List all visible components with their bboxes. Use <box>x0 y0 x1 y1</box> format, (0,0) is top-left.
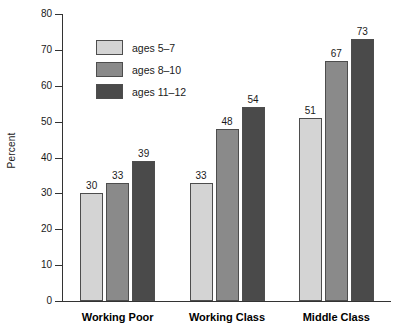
bar-group: 516773 <box>299 14 374 301</box>
y-axis-tick-label: 10 <box>28 260 52 270</box>
bar[interactable] <box>190 183 213 301</box>
bar[interactable] <box>80 193 103 301</box>
legend-swatch <box>96 40 123 55</box>
category-label: Middle Class <box>279 311 394 323</box>
y-axis-tick-labels: 80706050403020100 <box>24 0 52 331</box>
x-axis-category-labels: Working PoorWorking ClassMiddle Class <box>63 305 391 327</box>
y-axis-tick-label: 20 <box>28 224 52 234</box>
y-axis-tick-label: 80 <box>28 9 52 19</box>
bar[interactable] <box>132 161 155 301</box>
y-axis-tick <box>55 86 62 87</box>
category-label: Working Class <box>170 311 285 323</box>
y-axis-title-text: Percent <box>7 133 18 169</box>
legend-item[interactable]: ages 5–7 <box>96 38 226 57</box>
bar[interactable] <box>299 118 322 301</box>
y-axis-tick <box>55 301 62 302</box>
y-axis-tick <box>55 122 62 123</box>
legend-item[interactable]: ages 8–10 <box>96 60 226 79</box>
legend-label: ages 8–10 <box>132 64 181 76</box>
bar[interactable] <box>351 39 374 301</box>
y-axis-tick <box>55 50 62 51</box>
y-axis-tick-label: 30 <box>28 188 52 198</box>
bar-item[interactable]: 67 <box>325 14 348 301</box>
legend-swatch <box>96 84 123 99</box>
y-axis-tick-label: 50 <box>28 117 52 127</box>
bar[interactable] <box>325 61 348 301</box>
bar-item[interactable]: 73 <box>351 14 374 301</box>
category-label: Working Poor <box>60 311 175 323</box>
bar[interactable] <box>216 129 239 301</box>
y-axis-tick <box>55 265 62 266</box>
bar-value-label: 67 <box>319 48 354 59</box>
legend-label: ages 11–12 <box>132 86 186 98</box>
y-axis-tick <box>55 14 62 15</box>
y-axis-tick-label: 0 <box>28 296 52 306</box>
bar[interactable] <box>106 183 129 301</box>
bar[interactable] <box>242 107 265 301</box>
y-axis-tick-label: 70 <box>28 45 52 55</box>
y-axis-title: Percent <box>0 0 24 301</box>
bar-item[interactable]: 54 <box>242 14 265 301</box>
bar-value-label: 51 <box>293 105 328 116</box>
bar-value-label: 30 <box>74 180 109 191</box>
y-axis-tick-label: 40 <box>28 153 52 163</box>
legend-swatch <box>96 62 123 77</box>
legend-label: ages 5–7 <box>132 42 175 54</box>
bar-value-label: 54 <box>236 94 271 105</box>
y-axis-tick <box>55 193 62 194</box>
legend-item[interactable]: ages 11–12 <box>96 82 226 101</box>
bar-value-label: 73 <box>345 26 380 37</box>
chart-legend: ages 5–7ages 8–10ages 11–12 <box>96 38 226 104</box>
y-axis-tick-label: 60 <box>28 81 52 91</box>
y-axis-tick <box>55 158 62 159</box>
bar-chart: Percent 80706050403020100 30333933485451… <box>0 0 401 331</box>
y-axis-tick <box>55 229 62 230</box>
bar-value-label: 33 <box>184 170 219 181</box>
bar-value-label: 39 <box>126 148 161 159</box>
bar-value-label: 33 <box>100 170 135 181</box>
bar-value-label: 48 <box>210 116 245 127</box>
x-axis-line <box>62 301 391 302</box>
